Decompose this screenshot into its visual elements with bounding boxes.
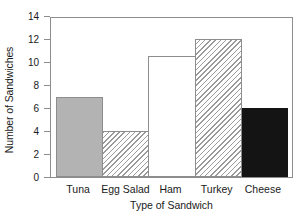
x-category-label-tuna: Tuna (55, 183, 101, 195)
y-tick-label: 14 (13, 12, 39, 22)
x-category-label-turkey: Turkey (194, 183, 240, 195)
y-tick-label: 4 (13, 127, 39, 137)
bar-turkey[interactable] (195, 39, 242, 177)
x-category-label-cheese: Cheese (240, 183, 286, 195)
bar-egg-salad[interactable] (102, 131, 149, 177)
bar-cheese[interactable] (241, 108, 288, 177)
x-category-label-egg-salad: Egg Salad (101, 183, 147, 195)
y-tick-label: 12 (13, 35, 39, 45)
x-category-label-ham: Ham (147, 183, 193, 195)
x-axis-title: Type of Sandwich (50, 199, 293, 211)
bar-tuna[interactable] (56, 97, 103, 178)
y-tick-label: 0 (13, 173, 39, 183)
y-tick-label: 10 (13, 58, 39, 68)
bar-chart: Number of Sandwiches 02468101214 TunaEgg… (0, 0, 308, 216)
y-tick-label: 6 (13, 104, 39, 114)
plot-area (50, 17, 293, 178)
y-tick-label: 2 (13, 150, 39, 160)
y-tick-label: 8 (13, 81, 39, 91)
bar-ham[interactable] (148, 56, 195, 177)
